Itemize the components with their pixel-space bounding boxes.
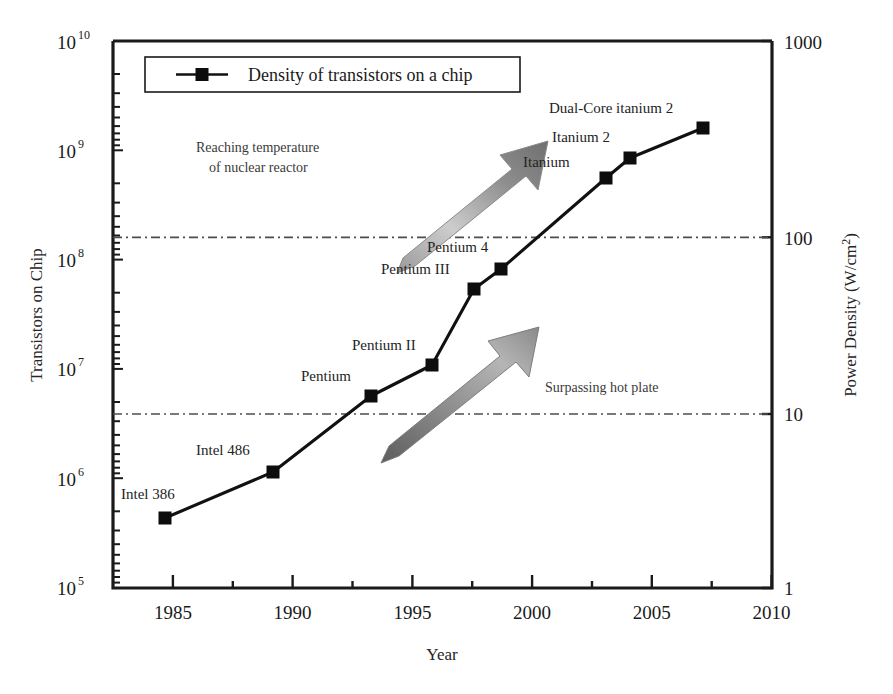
y-tick-1e10-base: 10	[57, 32, 76, 53]
x-axis-title: Year	[426, 645, 458, 664]
data-point-marker	[697, 122, 710, 135]
y-tick-1e7-exp: 7	[78, 355, 84, 369]
data-point-marker	[365, 390, 378, 403]
x-tick-2000: 2000	[513, 602, 551, 623]
chart-svg: Intel 386 Intel 486 Pentium Pentium II P…	[0, 0, 893, 694]
data-point-marker	[600, 172, 613, 185]
point-label-itanium2: Itanium 2	[552, 129, 610, 145]
y-right-tick-1: 1	[784, 578, 794, 599]
y-axis-title-right-close: )	[841, 233, 860, 239]
point-label-pentium2: Pentium II	[352, 337, 416, 353]
legend[interactable]: Density of transistors on a chip	[145, 57, 520, 92]
point-label-pentium: Pentium	[301, 368, 351, 384]
data-point-marker	[495, 263, 508, 276]
y-tick-1e6-base: 10	[57, 469, 76, 490]
chart-figure: Intel 386 Intel 486 Pentium Pentium II P…	[0, 0, 893, 694]
data-point-marker	[426, 359, 439, 372]
point-label-intel486: Intel 486	[196, 442, 250, 458]
data-point-marker	[267, 466, 280, 479]
point-label-itanium: Itanium	[523, 154, 570, 170]
y-right-tick-1000: 1000	[784, 32, 822, 53]
data-point-marker	[624, 152, 637, 165]
y-tick-1e10-exp: 10	[78, 28, 90, 42]
y-tick-1e7-base: 10	[57, 359, 76, 380]
annotation-nuclear-line1: Reaching temperature	[196, 140, 319, 155]
svg-text:Power Density (W/cm2): Power Density (W/cm2)	[839, 233, 860, 397]
data-point-marker	[468, 283, 481, 296]
annotation-nuclear-line2: of nuclear reactor	[209, 160, 308, 175]
y-axis-title-left: Transistors on Chip	[27, 248, 46, 382]
point-label-pentium3: Pentium III	[381, 261, 450, 277]
y-tick-1e8-base: 10	[57, 250, 76, 271]
y-tick-1e9-exp: 9	[78, 137, 84, 151]
x-tick-2005: 2005	[633, 602, 671, 623]
legend-label: Density of transistors on a chip	[248, 65, 472, 85]
y-tick-1e9-base: 10	[57, 141, 76, 162]
y-tick-1e5-exp: 5	[78, 574, 84, 588]
y-tick-1e8-exp: 8	[78, 246, 84, 260]
y-right-tick-10: 10	[784, 404, 803, 425]
point-label-dualcore: Dual-Core itanium 2	[549, 100, 673, 116]
x-tick-1990: 1990	[274, 602, 312, 623]
y-tick-1e5-base: 10	[57, 578, 76, 599]
data-point-marker	[159, 512, 172, 525]
y-axis-title-right-main: Power Density (W/cm	[841, 245, 860, 397]
y-right-tick-100: 100	[784, 228, 813, 249]
point-label-intel386: Intel 386	[121, 486, 175, 502]
x-tick-2010: 2010	[753, 602, 791, 623]
x-tick-1985: 1985	[154, 602, 192, 623]
point-label-pentium4: Pentium 4	[427, 239, 489, 255]
y-axis-title-right: Power Density (W/cm2)	[839, 233, 860, 397]
y-tick-1e6-exp: 6	[78, 465, 84, 479]
x-tick-1995: 1995	[393, 602, 431, 623]
canvas-background	[0, 0, 893, 694]
annotation-hot-plate: Surpassing hot plate	[545, 380, 659, 395]
